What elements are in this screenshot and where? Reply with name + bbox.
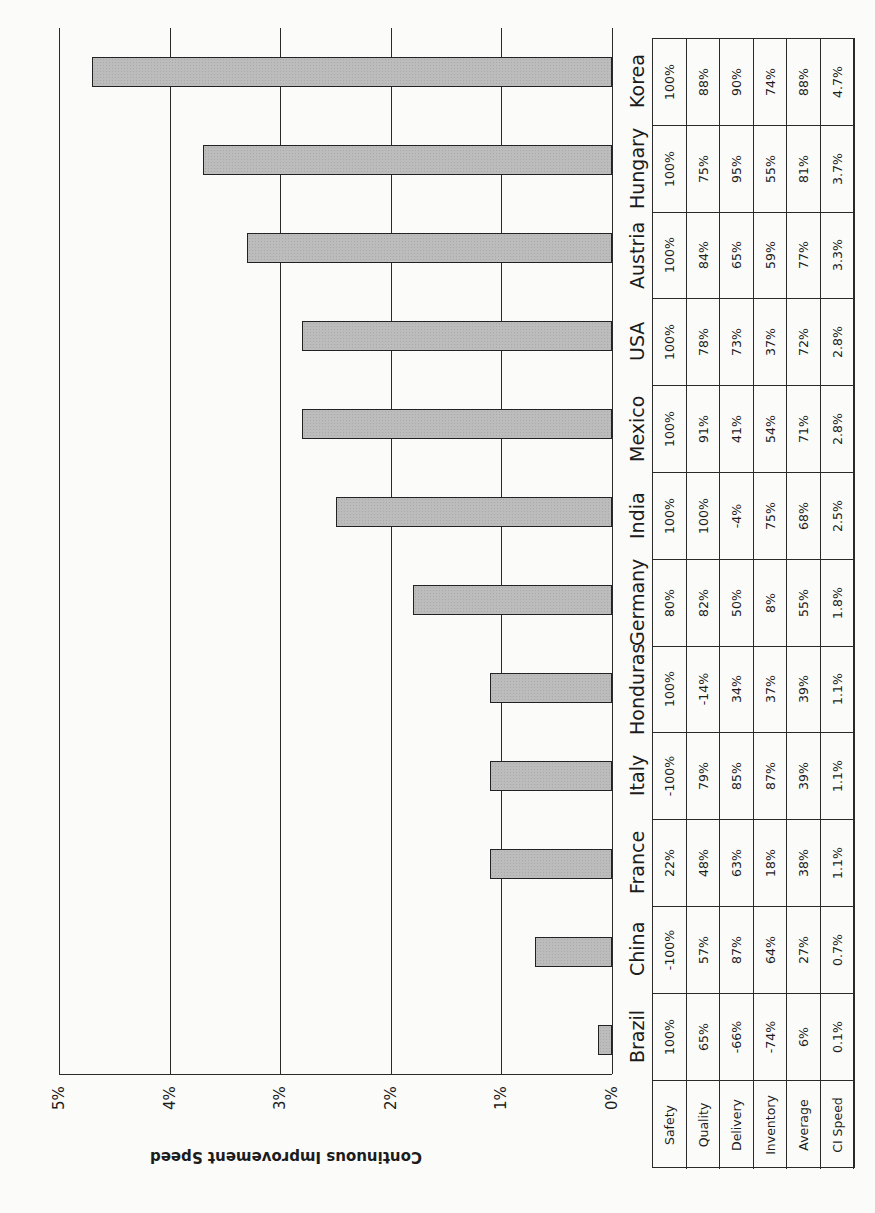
table-cell: 100% xyxy=(653,473,687,560)
table-cell-value: 65% xyxy=(695,1023,710,1051)
category-label-germany: Germany xyxy=(626,558,648,645)
table-cell: 71% xyxy=(787,386,821,473)
category-label-hungary: Hungary xyxy=(626,128,648,209)
table-cell: 73% xyxy=(720,299,754,386)
table-cell-value: 100% xyxy=(662,672,677,708)
table-row-header: Safety xyxy=(653,1081,687,1169)
value-axis-title: Continuous Improvement Speed xyxy=(150,1148,422,1166)
table-cell-value: 65% xyxy=(729,242,744,270)
table-cell-value: 87% xyxy=(729,936,744,964)
table-cell: 4.7% xyxy=(821,39,855,126)
table-cell: 68% xyxy=(787,473,821,560)
table-cell: 100% xyxy=(653,647,687,734)
bar-brazil xyxy=(598,1025,612,1055)
table-cell: 48% xyxy=(687,820,721,907)
tick-label: 0% xyxy=(603,1086,621,1110)
table-cell: 100% xyxy=(653,213,687,300)
category-label-india: India xyxy=(626,492,648,539)
table-cell: 72% xyxy=(787,299,821,386)
table-row-header: CI Speed xyxy=(821,1081,855,1169)
table-cell: 100% xyxy=(653,994,687,1081)
tick-label: 3% xyxy=(271,1086,289,1110)
table-cell-value: 37% xyxy=(762,328,777,356)
table-cell: 74% xyxy=(754,39,788,126)
table-cell: 75% xyxy=(754,473,788,560)
table-cell-value: 8% xyxy=(762,593,777,613)
table-cell: 85% xyxy=(720,733,754,820)
value-axis-line xyxy=(59,1074,612,1075)
table-cell: 0.7% xyxy=(821,907,855,994)
table-cell: 64% xyxy=(754,907,788,994)
table-cell: -66% xyxy=(720,994,754,1081)
bar-mexico xyxy=(302,409,612,439)
table-cell-value: 2.8% xyxy=(829,413,844,445)
table-cell-value: 39% xyxy=(796,676,811,704)
table-cell-value: -66% xyxy=(729,1021,744,1053)
table-cell-value: 100% xyxy=(662,238,677,274)
category-label-korea: Korea xyxy=(626,55,648,109)
bar-india xyxy=(336,497,613,527)
category-label-france: France xyxy=(626,831,648,894)
tick-label: 2% xyxy=(382,1086,400,1110)
table-cell-value: 64% xyxy=(762,936,777,964)
table-cell-value: 2.5% xyxy=(829,500,844,532)
table-cell-value: 50% xyxy=(729,589,744,617)
table-cell: -14% xyxy=(687,647,721,734)
table-cell: 88% xyxy=(687,39,721,126)
table-cell: 80% xyxy=(653,560,687,647)
category-label-austria: Austria xyxy=(626,221,648,288)
bar-germany xyxy=(413,585,612,615)
table-cell-value: 73% xyxy=(729,328,744,356)
table-cell-value: 75% xyxy=(695,155,710,183)
table-cell: 37% xyxy=(754,647,788,734)
table-cell-value: 37% xyxy=(762,676,777,704)
table-cell-value: 88% xyxy=(796,68,811,96)
bar-honduras xyxy=(490,673,612,703)
table-cell-value: 87% xyxy=(762,762,777,790)
category-label-italy: Italy xyxy=(626,755,648,796)
table-cell: 50% xyxy=(720,560,754,647)
table-cell-value: 0.7% xyxy=(829,934,844,966)
table-cell-value: 91% xyxy=(695,415,710,443)
table-cell-value: -100% xyxy=(662,930,677,970)
table-cell-value: 18% xyxy=(762,849,777,877)
category-label-brazil: Brazil xyxy=(626,1010,648,1063)
bar-usa xyxy=(302,321,612,351)
table-cell: -100% xyxy=(653,907,687,994)
gridline-4-percent xyxy=(170,28,171,1074)
table-cell: 2.8% xyxy=(821,299,855,386)
table-cell-value: 100% xyxy=(662,64,677,100)
bar-hungary xyxy=(203,145,612,175)
gridline-1-percent xyxy=(501,28,502,1074)
table-cell-value: 55% xyxy=(796,589,811,617)
table-cell: 75% xyxy=(687,126,721,213)
table-cell: 38% xyxy=(787,820,821,907)
table-cell: 100% xyxy=(653,299,687,386)
tick-label: 4% xyxy=(161,1086,179,1110)
table-cell-value: 6% xyxy=(796,1027,811,1047)
table-cell: 87% xyxy=(720,907,754,994)
data-table: 100%88%90%74%88%4.7%100%75%95%55%81%3.7%… xyxy=(652,38,855,1168)
table-cell: 1.8% xyxy=(821,560,855,647)
table-cell-value: 34% xyxy=(729,676,744,704)
table-cell-value: 54% xyxy=(762,415,777,443)
table-cell-value: 78% xyxy=(695,328,710,356)
table-cell: 1.1% xyxy=(821,647,855,734)
table-cell-value: -74% xyxy=(762,1021,777,1053)
table-cell-value: 57% xyxy=(695,936,710,964)
table-cell: 91% xyxy=(687,386,721,473)
table-cell: 100% xyxy=(653,39,687,126)
table-cell: 22% xyxy=(653,820,687,907)
table-cell: 34% xyxy=(720,647,754,734)
row-header-label: CI Speed xyxy=(829,1097,844,1153)
table-cell-value: 38% xyxy=(796,849,811,877)
table-cell: -4% xyxy=(720,473,754,560)
table-cell: 79% xyxy=(687,733,721,820)
table-cell-value: 95% xyxy=(729,155,744,183)
table-cell: 1.1% xyxy=(821,733,855,820)
table-cell-value: 55% xyxy=(762,155,777,183)
table-cell-value: 68% xyxy=(796,502,811,530)
table-cell-value: 74% xyxy=(762,68,777,96)
table-cell: 2.5% xyxy=(821,473,855,560)
table-cell: 41% xyxy=(720,386,754,473)
